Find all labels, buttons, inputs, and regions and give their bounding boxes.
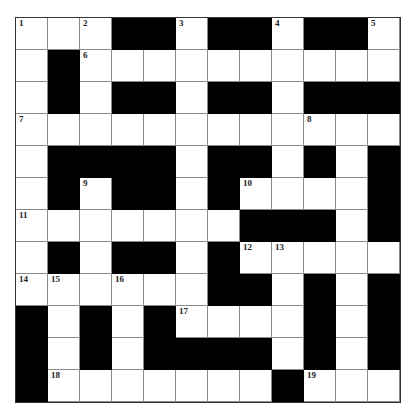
grid-cell[interactable]: [272, 178, 304, 210]
grid-cell[interactable]: [176, 114, 208, 146]
grid-cell[interactable]: 12: [240, 242, 272, 274]
grid-cell[interactable]: [208, 50, 240, 82]
grid-cell[interactable]: [272, 306, 304, 338]
grid-cell[interactable]: [336, 114, 368, 146]
grid-cell[interactable]: [272, 146, 304, 178]
grid-cell[interactable]: [240, 50, 272, 82]
grid-cell[interactable]: [336, 274, 368, 306]
grid-cell[interactable]: [368, 242, 400, 274]
grid-cell[interactable]: 15: [48, 274, 80, 306]
grid-cell[interactable]: 11: [16, 210, 48, 242]
grid-cell[interactable]: [144, 210, 176, 242]
grid-cell[interactable]: [80, 370, 112, 402]
grid-cell[interactable]: 5: [368, 18, 400, 50]
grid-cell[interactable]: [16, 242, 48, 274]
grid-cell[interactable]: [112, 306, 144, 338]
grid-cell[interactable]: 18: [48, 370, 80, 402]
grid-cell[interactable]: [304, 242, 336, 274]
grid-cell[interactable]: [336, 50, 368, 82]
grid-cell[interactable]: 4: [272, 18, 304, 50]
grid-cell[interactable]: [16, 50, 48, 82]
block-cell: [368, 82, 400, 114]
clue-number: 7: [19, 115, 24, 124]
grid-cell[interactable]: [16, 146, 48, 178]
grid-cell[interactable]: [144, 114, 176, 146]
grid-cell[interactable]: [304, 50, 336, 82]
grid-cell[interactable]: [272, 338, 304, 370]
grid-cell[interactable]: [272, 50, 304, 82]
grid-cell[interactable]: [112, 370, 144, 402]
grid-cell[interactable]: [240, 114, 272, 146]
grid-cell[interactable]: [48, 338, 80, 370]
grid-cell[interactable]: [80, 114, 112, 146]
grid-cell[interactable]: [80, 210, 112, 242]
grid-cell[interactable]: [336, 210, 368, 242]
block-cell: [304, 146, 336, 178]
grid-cell[interactable]: [336, 338, 368, 370]
grid-cell[interactable]: 16: [112, 274, 144, 306]
grid-cell[interactable]: 13: [272, 242, 304, 274]
clue-number: 12: [243, 243, 252, 252]
grid-cell[interactable]: [112, 338, 144, 370]
grid-cell[interactable]: [368, 114, 400, 146]
grid-cell[interactable]: [240, 370, 272, 402]
clue-number: 19: [307, 371, 316, 380]
grid-cell[interactable]: [176, 242, 208, 274]
grid-cell[interactable]: 6: [80, 50, 112, 82]
grid-cell[interactable]: [336, 146, 368, 178]
block-cell: [112, 82, 144, 114]
grid-cell[interactable]: 7: [16, 114, 48, 146]
grid-cell[interactable]: [112, 114, 144, 146]
grid-cell[interactable]: [336, 178, 368, 210]
grid-cell[interactable]: [176, 146, 208, 178]
grid-cell[interactable]: [304, 178, 336, 210]
grid-cell[interactable]: [48, 306, 80, 338]
grid-cell[interactable]: [48, 114, 80, 146]
grid-cell[interactable]: [176, 178, 208, 210]
grid-cell[interactable]: 14: [16, 274, 48, 306]
grid-cell[interactable]: [368, 50, 400, 82]
grid-cell[interactable]: 1: [16, 18, 48, 50]
grid-cell[interactable]: [144, 370, 176, 402]
grid-cell[interactable]: [208, 114, 240, 146]
grid-cell[interactable]: [176, 274, 208, 306]
clue-number: 17: [179, 307, 188, 316]
grid-cell[interactable]: 19: [304, 370, 336, 402]
grid-cell[interactable]: [208, 210, 240, 242]
grid-cell[interactable]: [272, 82, 304, 114]
grid-cell[interactable]: [336, 306, 368, 338]
grid-cell[interactable]: [336, 242, 368, 274]
grid-cell[interactable]: [272, 274, 304, 306]
grid-cell[interactable]: [48, 210, 80, 242]
grid-cell[interactable]: [144, 274, 176, 306]
grid-cell[interactable]: 9: [80, 178, 112, 210]
block-cell: [48, 82, 80, 114]
grid-cell[interactable]: [176, 370, 208, 402]
grid-cell[interactable]: [336, 370, 368, 402]
grid-cell[interactable]: 8: [304, 114, 336, 146]
grid-cell[interactable]: [176, 82, 208, 114]
grid-cell[interactable]: [144, 50, 176, 82]
grid-cell[interactable]: [48, 18, 80, 50]
block-cell: [80, 306, 112, 338]
grid-cell[interactable]: [80, 82, 112, 114]
grid-cell[interactable]: [16, 82, 48, 114]
grid-cell[interactable]: [80, 274, 112, 306]
grid-cell[interactable]: [112, 50, 144, 82]
grid-cell[interactable]: [368, 370, 400, 402]
grid-cell[interactable]: [272, 114, 304, 146]
grid-cell[interactable]: 2: [80, 18, 112, 50]
grid-cell[interactable]: [176, 50, 208, 82]
grid-cell[interactable]: 3: [176, 18, 208, 50]
grid-cell[interactable]: 10: [240, 178, 272, 210]
grid-cell[interactable]: 17: [176, 306, 208, 338]
grid-cell[interactable]: [208, 370, 240, 402]
grid-cell[interactable]: [112, 210, 144, 242]
grid-cell[interactable]: [176, 210, 208, 242]
block-cell: [240, 146, 272, 178]
grid-cell[interactable]: [208, 306, 240, 338]
grid-cell[interactable]: [240, 306, 272, 338]
grid-cell[interactable]: [16, 178, 48, 210]
clue-number: 8: [307, 115, 312, 124]
grid-cell[interactable]: [80, 242, 112, 274]
